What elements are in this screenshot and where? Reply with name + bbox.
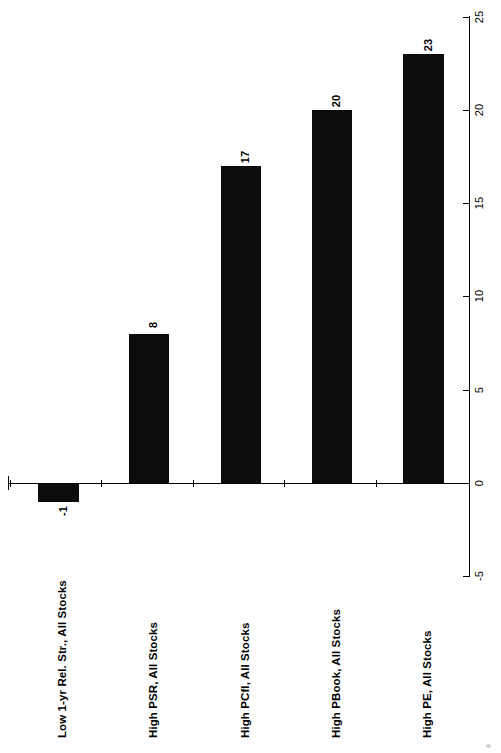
value-axis-tick	[463, 17, 470, 18]
bar-value-label: 20	[331, 95, 342, 107]
value-axis-tick-label: 0	[474, 480, 485, 486]
value-axis-tick-label: 20	[474, 103, 485, 116]
bar-value-label: 17	[240, 151, 251, 163]
value-axis-tick	[463, 296, 470, 297]
category-axis-tick	[284, 480, 285, 487]
bar-chart: -50510152025 -18172023 Low 1-yr Rel. Str…	[0, 0, 501, 753]
category-axis-end-tick	[8, 476, 9, 490]
category-axis-tick	[193, 480, 194, 487]
category-axis-tick	[10, 480, 11, 487]
value-axis-tick-label: -5	[474, 571, 485, 581]
page-edge-speckle	[486, 744, 491, 748]
bar	[221, 166, 261, 483]
value-axis-tick-label: 15	[474, 197, 485, 210]
value-axis-tick	[463, 203, 470, 204]
category-label: Low 1-yr Rel. Str., All Stocks	[56, 580, 68, 738]
category-axis-tick	[101, 480, 102, 487]
bar	[129, 334, 169, 483]
value-axis-tick-label: 25	[474, 10, 485, 23]
bar-value-label: 23	[422, 39, 433, 51]
value-axis-tick	[463, 110, 470, 111]
bar-value-label: 8	[148, 322, 159, 328]
category-label: High PSR, All Stocks	[147, 622, 159, 738]
bar-value-label: -1	[57, 506, 68, 516]
bar	[403, 54, 444, 483]
value-axis-tick-label: 5	[474, 387, 485, 393]
value-axis-tick	[463, 483, 470, 484]
category-label: High PE, All Stocks	[421, 630, 433, 738]
value-axis-tick	[463, 576, 470, 577]
value-axis-tick	[463, 390, 470, 391]
bar	[38, 483, 79, 502]
category-axis-tick	[376, 480, 377, 487]
value-axis-tick-label: 10	[474, 290, 485, 303]
bar	[312, 110, 352, 483]
category-label: High PBook, All Stocks	[330, 609, 342, 738]
category-label: High PCfl, All Stocks	[239, 623, 251, 738]
